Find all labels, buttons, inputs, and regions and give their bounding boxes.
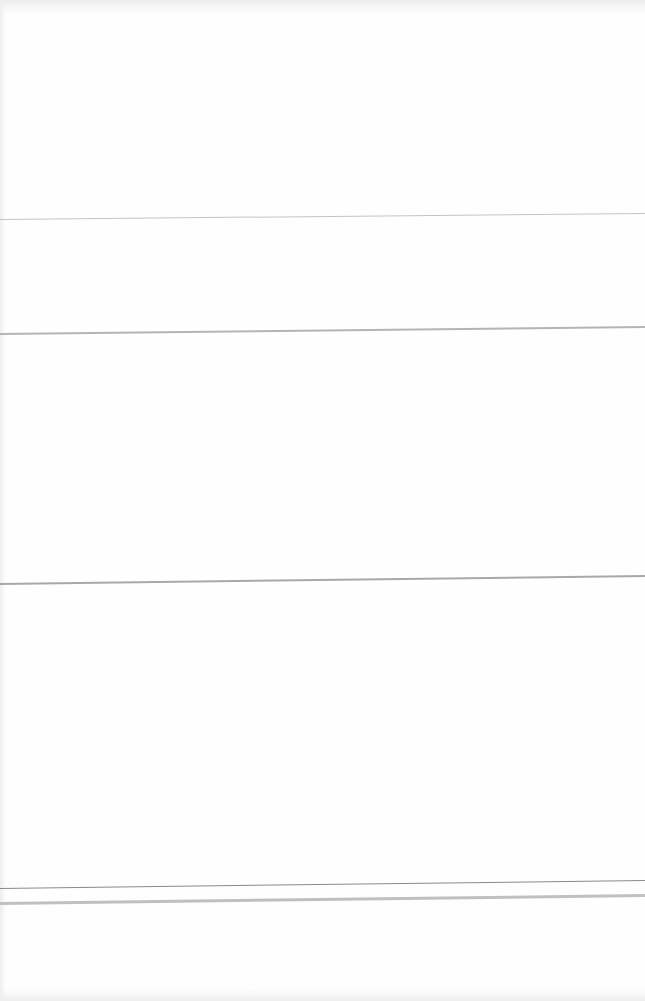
blank-page xyxy=(0,0,645,1001)
scan-edge-top xyxy=(0,0,645,14)
horizontal-rule-3 xyxy=(0,575,645,585)
horizontal-rule-5 xyxy=(0,894,645,905)
scan-edge-bottom xyxy=(0,989,645,1001)
scan-edge-left xyxy=(0,0,6,1001)
horizontal-rule-1 xyxy=(0,213,645,220)
horizontal-rule-2 xyxy=(0,326,645,335)
horizontal-rule-4 xyxy=(0,880,645,889)
